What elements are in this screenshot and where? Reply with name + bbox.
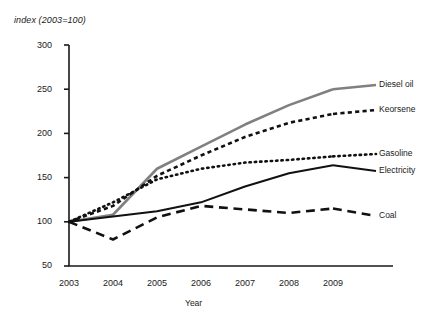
line-chart: index (2003=100) Year 300 250 200 150 10…	[0, 0, 429, 321]
legend-swatch-coal	[333, 209, 376, 216]
legend-swatch-keorsene	[333, 110, 376, 114]
legend-swatch-electricity	[333, 165, 376, 171]
legend-swatch-diesel-oil	[333, 85, 376, 89]
plot-svg	[0, 0, 429, 321]
series-lines	[69, 89, 333, 239]
legend-swatch-gasoline	[333, 154, 376, 156]
series-line-coal	[69, 206, 333, 240]
legend-swatches	[333, 85, 376, 216]
